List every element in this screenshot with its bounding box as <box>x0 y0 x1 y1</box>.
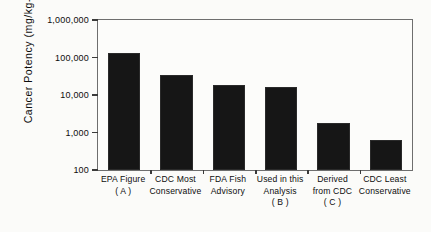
x-axis-label-line: Advisory <box>198 186 258 198</box>
x-axis-label-line: ( A ) <box>93 186 153 198</box>
y-tick-label: 10,000 <box>60 90 89 100</box>
x-axis-label-line: Used in this <box>250 174 310 186</box>
bar <box>108 53 140 170</box>
y-axis-title: Cancer Potency (mg/kg-day)-1 <box>18 0 38 136</box>
bar <box>160 75 192 170</box>
x-axis-label-line: FDA Fish <box>198 174 258 186</box>
x-axis-labels: EPA Figure( A )CDC MostConservativeFDA F… <box>97 174 413 230</box>
y-axis-title-text: Cancer Potency (mg/kg-day) <box>22 0 34 123</box>
x-axis-label-line: Conservative <box>355 186 415 198</box>
x-axis-label-line: from CDC <box>302 186 362 198</box>
x-axis-label-line: ( B ) <box>250 197 310 209</box>
y-tick-label: 1,000 <box>65 128 89 138</box>
x-axis-label: CDC MostConservative <box>145 174 205 197</box>
x-axis-label-line: Conservative <box>145 186 205 198</box>
bar-series <box>98 20 412 170</box>
x-axis-label-line: CDC Least <box>355 174 415 186</box>
bar <box>213 85 245 170</box>
y-tick-label: 1,000,000 <box>47 15 89 25</box>
y-tick-label: 100,000 <box>55 53 89 63</box>
x-axis-label: Derivedfrom CDC( C ) <box>302 174 362 209</box>
y-tick-label: 100 <box>73 165 89 175</box>
plot-area: 1,000,000100,00010,0001,000100 <box>97 19 413 171</box>
x-axis-label: EPA Figure( A ) <box>93 174 153 197</box>
bar <box>265 87 297 170</box>
x-axis-label: Used in thisAnalysis( B ) <box>250 174 310 209</box>
x-axis-label-line: ( C ) <box>302 197 362 209</box>
bar <box>370 140 402 170</box>
bar <box>317 123 349 170</box>
x-axis-label: FDA FishAdvisory <box>198 174 258 197</box>
x-axis-label: CDC LeastConservative <box>355 174 415 197</box>
x-axis-label-line: Derived <box>302 174 362 186</box>
x-axis-label-line: CDC Most <box>145 174 205 186</box>
x-axis-label-line: Analysis <box>250 186 310 198</box>
figure: Cancer Potency (mg/kg-day)-1 1,000,00010… <box>0 0 431 232</box>
x-axis-label-line: EPA Figure <box>93 174 153 186</box>
